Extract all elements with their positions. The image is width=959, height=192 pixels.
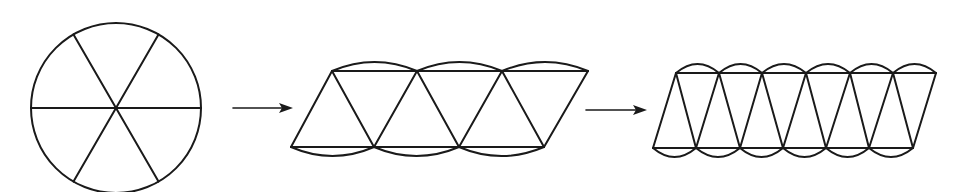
sectored-circle [31, 23, 201, 192]
bottom-sector-arc [696, 148, 740, 157]
sector-radius-line [291, 71, 332, 147]
sector-radius-line [417, 71, 459, 147]
sector-radius-line [544, 71, 588, 147]
bottom-sector-arc [459, 147, 544, 156]
top-sector-arc [676, 64, 719, 73]
sector-radius-line [740, 73, 762, 148]
sector-radius-line [676, 73, 696, 148]
bottom-sector-arc [653, 148, 696, 157]
top-sector-arc [719, 64, 762, 73]
bottom-sector-arc [869, 148, 913, 157]
sector-radius-line [869, 73, 893, 148]
sector-radius-line [459, 71, 502, 147]
top-sector-arc [893, 64, 936, 73]
top-sector-arc [762, 64, 806, 73]
bottom-sector-arc [740, 148, 783, 157]
bottom-sector-arc [783, 148, 826, 157]
sector-radius-line [913, 73, 936, 148]
diagram-stage [0, 0, 959, 192]
sector-radius-line [653, 73, 676, 148]
top-sector-arc [417, 62, 502, 71]
sector-radius-line [826, 73, 850, 148]
diagram-canvas [0, 0, 959, 192]
sector-radius-line [696, 73, 719, 148]
sector-radius-line [806, 73, 826, 148]
top-sector-arc [332, 62, 417, 71]
bottom-sector-arc [374, 147, 459, 156]
sector-radius-line [893, 73, 913, 148]
top-sector-arc [502, 62, 588, 71]
top-sector-arc [850, 64, 893, 73]
sector-radius-line [719, 73, 740, 148]
sector-radius-line [374, 71, 417, 147]
sector-radius-line [762, 73, 783, 148]
bottom-sector-arc [291, 147, 374, 156]
arrow-2 [586, 105, 647, 115]
top-sector-arc [806, 64, 850, 73]
rearranged-six-sectors [291, 62, 588, 156]
sector-radius-line [502, 71, 544, 147]
sector-radius-line [850, 73, 869, 148]
sector-radius-line [332, 71, 374, 147]
arrow-1 [233, 103, 293, 113]
sector-radius-line [783, 73, 806, 148]
rearranged-twelve-sectors [653, 64, 936, 157]
bottom-sector-arc [826, 148, 869, 157]
